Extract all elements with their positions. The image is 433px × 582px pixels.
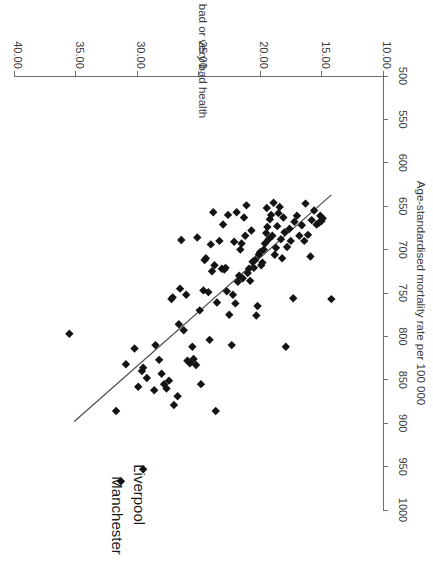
scatter-point xyxy=(247,226,255,234)
x-tick-label: 35.00 xyxy=(74,41,86,69)
scatter-point xyxy=(232,208,240,216)
scatter-point xyxy=(240,213,248,221)
scatter-point xyxy=(143,374,151,382)
scatter-point xyxy=(177,236,185,244)
scatter-point xyxy=(272,244,280,252)
scatter-point xyxy=(224,211,232,219)
x-tick-label: 30.00 xyxy=(135,41,147,69)
scatter-point xyxy=(301,199,309,207)
y-tick-label: 600 xyxy=(397,154,409,172)
scatter-point xyxy=(236,245,244,253)
point-annotations: ManchesterLiverpool xyxy=(109,464,148,555)
scatter-point xyxy=(242,201,250,209)
annotation-label-liverpool: Liverpool xyxy=(131,464,148,525)
scatter-point xyxy=(130,344,138,352)
y-tick-label: 500 xyxy=(397,67,409,85)
scatter-point xyxy=(155,356,163,364)
chart-figure: 10.0015.0020.0025.0030.0035.0040.00 5005… xyxy=(0,0,433,582)
x-tick-label: 20.00 xyxy=(258,41,270,69)
y-axis-title: Age-standardised mortality rate per 100 … xyxy=(415,181,427,405)
x-tick-label: 10.00 xyxy=(381,41,393,69)
scatter-point xyxy=(278,254,286,262)
scatter-point xyxy=(237,239,245,247)
scatter-markers xyxy=(65,199,335,486)
scatter-point xyxy=(134,383,142,391)
scatter-point xyxy=(150,386,158,394)
scatter-point xyxy=(241,232,249,240)
rotated-plot-container: 10.0015.0020.0025.0030.0035.0040.00 5005… xyxy=(0,0,433,582)
scatter-point xyxy=(263,204,271,212)
axes-group xyxy=(14,76,383,510)
scatter-point xyxy=(207,240,215,248)
scatter-point xyxy=(263,223,271,231)
scatter-point xyxy=(193,233,201,241)
x-tick-label: 15.00 xyxy=(320,41,332,69)
y-tick-label: 700 xyxy=(397,240,409,258)
y-tick-label: 1000 xyxy=(397,498,409,522)
scatter-point xyxy=(230,238,238,246)
scatter-point xyxy=(327,295,335,303)
scatter-point xyxy=(295,232,303,240)
scatter-point xyxy=(252,311,260,319)
scatter-point xyxy=(269,199,277,207)
y-tick-label: 800 xyxy=(397,327,409,345)
scatter-point xyxy=(212,407,220,415)
scatter-point xyxy=(228,341,236,349)
scatter-point xyxy=(122,360,130,368)
y-tick-label: 750 xyxy=(397,284,409,302)
scatter-point xyxy=(213,298,221,306)
scatter-point xyxy=(231,299,239,307)
scatter-point xyxy=(289,294,297,302)
scatter-point xyxy=(157,370,165,378)
scatter-point xyxy=(176,284,184,292)
scatter-point xyxy=(197,380,205,388)
scatter-point xyxy=(282,343,290,351)
annotation-label-manchester: Manchester xyxy=(109,476,126,554)
scatter-point xyxy=(306,252,314,260)
scatter-point xyxy=(271,251,279,259)
y-axis-ticks: 5005506006507007508008509009501000 xyxy=(383,67,409,522)
scatter-point xyxy=(65,330,73,338)
scatter-point xyxy=(112,407,120,415)
y-tick-label: 650 xyxy=(397,197,409,215)
scatter-point xyxy=(170,401,178,409)
y-tick-label: 550 xyxy=(397,110,409,128)
scatter-plot-svg: 10.0015.0020.0025.0030.0035.0040.00 5005… xyxy=(0,0,433,582)
scatter-point xyxy=(215,237,223,245)
scatter-point xyxy=(173,392,181,400)
y-tick-label: 950 xyxy=(397,457,409,475)
scatter-point xyxy=(246,277,254,285)
y-tick-label: 900 xyxy=(397,414,409,432)
scatter-point xyxy=(188,343,196,351)
scatter-point xyxy=(275,203,283,211)
scatter-point xyxy=(273,222,281,230)
y-tick-label: 850 xyxy=(397,371,409,389)
x-axis-title: % reporting bad or very bad health xyxy=(197,0,209,118)
x-tick-label: 40.00 xyxy=(12,41,24,69)
scatter-point xyxy=(182,291,190,299)
scatter-point xyxy=(298,221,306,229)
scatter-point xyxy=(219,220,227,228)
scatter-point xyxy=(205,336,213,344)
scatter-point xyxy=(225,311,233,319)
scatter-point xyxy=(209,208,217,216)
scatter-point xyxy=(253,302,261,310)
